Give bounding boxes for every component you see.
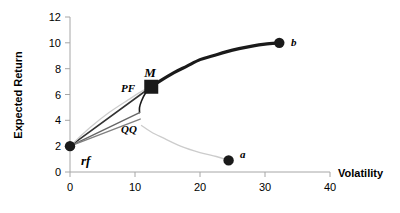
y-tick-label-8: 8 <box>55 63 61 75</box>
series-efficient-frontier <box>151 43 279 87</box>
point-label-PF: PF <box>121 82 136 94</box>
marker-layer <box>65 38 285 166</box>
data-point-b <box>274 38 284 48</box>
point-label-M: M <box>143 65 156 80</box>
point-label-QQ: QQ <box>121 123 137 135</box>
x-tick-label-0: 0 <box>67 181 73 193</box>
x-tick-label-40: 40 <box>324 181 336 193</box>
point-label-a: a <box>240 148 246 160</box>
y-tick-label-10: 10 <box>49 37 61 49</box>
series-inefficient-branch-to-a <box>142 126 229 161</box>
point-label-rf: rf <box>81 153 92 168</box>
chart-svg: 12 10 8 6 4 2 0 0 10 20 30 40 Volatility… <box>0 0 400 213</box>
y-axis-title: Expected Return <box>12 51 24 139</box>
chart-container: 12 10 8 6 4 2 0 0 10 20 30 40 Volatility… <box>0 0 400 213</box>
x-tick-label-30: 30 <box>259 181 271 193</box>
y-tick-label-6: 6 <box>55 89 61 101</box>
y-tick-label-0: 0 <box>55 166 61 178</box>
data-point-rf <box>65 141 75 151</box>
x-axis-title: Volatility <box>338 167 384 179</box>
y-tick-label-4: 4 <box>55 114 61 126</box>
x-tick-label-20: 20 <box>194 181 206 193</box>
point-label-b: b <box>291 36 297 48</box>
series-cal-upper-to-M <box>70 87 151 146</box>
series-layer <box>70 43 279 161</box>
y-tick-label-2: 2 <box>55 140 61 152</box>
data-point-M <box>144 80 158 94</box>
x-tick-label-10: 10 <box>129 181 141 193</box>
y-tick-label-12: 12 <box>49 11 61 23</box>
data-point-a <box>223 155 233 165</box>
x-axis-ticks <box>70 172 330 177</box>
